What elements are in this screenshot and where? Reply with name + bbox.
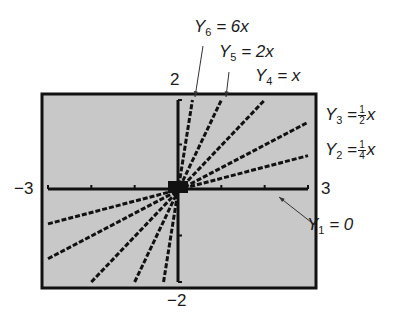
xmax-label: 3 [321,179,330,199]
origin-cluster [168,181,188,193]
arrow-y6 [195,46,203,97]
label-y2: Y2 =14x [325,140,375,161]
ymax-label: 2 [170,70,179,90]
ymin-label: −2 [167,291,186,311]
xmin-label: −3 [14,179,33,199]
label-y1: Y1 = 0 [307,215,353,236]
label-y4: Y4 = x [255,66,300,87]
label-y5: Y5 = 2x [219,42,274,63]
label-y3: Y3 =12x [325,105,375,126]
label-y6: Y6 = 6x [194,17,249,38]
